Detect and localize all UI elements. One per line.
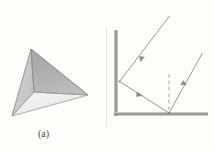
reflected-ray-c-to-d: [169, 53, 203, 113]
incident-ray-a-to-b: [120, 16, 170, 82]
figure-root: (a): [0, 0, 214, 151]
point-b-marker: [119, 81, 121, 83]
reflected-ray-b-to-c: [120, 82, 170, 114]
panel-a-tetrahedron: (a): [0, 0, 107, 151]
incident-ray-arrowhead: [140, 57, 145, 62]
point-c-marker: [168, 112, 170, 114]
panel-b-ray-diagram: A B C D M1 M2 (b): [107, 0, 214, 151]
ray-diagram-drawing: [107, 0, 214, 151]
caption-panel-a: (a): [38, 128, 49, 139]
tetrahedron-drawing: [0, 0, 107, 151]
reflected-ray-bc-arrowhead: [136, 92, 142, 97]
